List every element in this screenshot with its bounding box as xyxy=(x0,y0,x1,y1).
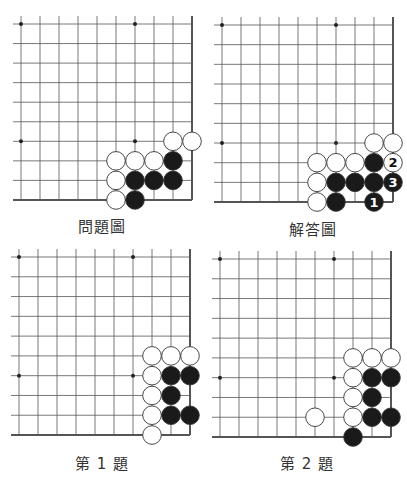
board-exercise-2 xyxy=(212,251,400,446)
star-point-icon xyxy=(334,141,338,145)
board-exercise-1 xyxy=(11,249,199,444)
black-stone xyxy=(164,152,183,171)
white-stone xyxy=(382,349,401,368)
white-stone xyxy=(344,349,363,368)
move-number-label: 1 xyxy=(369,195,378,210)
star-point-icon xyxy=(218,257,222,261)
move-number-label: 2 xyxy=(388,155,397,170)
go-diagram-canvas: 231 xyxy=(0,0,407,479)
move-number-label: 3 xyxy=(388,175,397,190)
star-point-icon xyxy=(133,22,137,26)
black-stone xyxy=(327,173,346,192)
board-answer: 231 xyxy=(214,17,402,211)
black-stone xyxy=(126,171,145,190)
grid-lines xyxy=(214,17,393,202)
black-stone xyxy=(181,366,200,385)
black-stone xyxy=(363,388,382,407)
star-point-icon xyxy=(334,23,338,27)
white-stone xyxy=(107,171,126,190)
white-stone xyxy=(363,349,382,368)
black-stone xyxy=(363,368,382,387)
black-stone: 1 xyxy=(365,193,384,212)
caption-exercise-1: 第 1 題 xyxy=(75,452,129,473)
star-point-icon xyxy=(17,255,21,259)
black-stone xyxy=(344,428,363,447)
black-stone xyxy=(162,366,181,385)
star-point-icon xyxy=(133,139,137,143)
black-stone xyxy=(363,408,382,427)
white-stone xyxy=(143,406,162,425)
white-stone xyxy=(145,152,164,171)
white-stone xyxy=(143,347,162,366)
star-point-icon xyxy=(131,255,135,259)
black-stone xyxy=(164,171,183,190)
black-stone xyxy=(181,406,200,425)
black-stone xyxy=(365,153,384,172)
star-point-icon xyxy=(19,22,23,26)
white-stone xyxy=(344,388,363,407)
white-stone xyxy=(308,193,327,212)
white-stone xyxy=(143,426,162,445)
black-stone xyxy=(126,191,145,210)
board-problem xyxy=(13,16,201,209)
white-stone: 2 xyxy=(384,153,403,172)
grid-lines xyxy=(13,16,192,200)
white-stone xyxy=(162,347,181,366)
white-stone xyxy=(143,366,162,385)
black-stone xyxy=(382,408,401,427)
star-point-icon xyxy=(131,374,135,378)
black-stone xyxy=(327,193,346,212)
white-stone xyxy=(126,152,145,171)
grid-lines xyxy=(11,249,190,435)
black-stone: 3 xyxy=(384,173,403,192)
star-point-icon xyxy=(220,23,224,27)
white-stone xyxy=(308,173,327,192)
white-stone xyxy=(107,191,126,210)
white-stone xyxy=(327,153,346,172)
star-point-icon xyxy=(332,376,336,380)
black-stone xyxy=(162,406,181,425)
star-point-icon xyxy=(218,376,222,380)
black-stone xyxy=(382,368,401,387)
star-point-icon xyxy=(19,139,23,143)
caption-exercise-2: 第 2 題 xyxy=(280,452,334,473)
caption-problem: 問題圖 xyxy=(78,215,126,236)
white-stone xyxy=(344,408,363,427)
white-stone xyxy=(306,408,325,427)
star-point-icon xyxy=(332,257,336,261)
white-stone xyxy=(183,132,202,151)
caption-answer: 解答圖 xyxy=(289,218,337,239)
star-point-icon xyxy=(220,141,224,145)
star-point-icon xyxy=(17,374,21,378)
white-stone xyxy=(308,153,327,172)
white-stone xyxy=(164,132,183,151)
black-stone xyxy=(145,171,164,190)
white-stone xyxy=(181,347,200,366)
black-stone xyxy=(346,173,365,192)
grid-lines xyxy=(212,251,391,437)
white-stone xyxy=(143,386,162,405)
black-stone xyxy=(365,173,384,192)
white-stone xyxy=(365,134,384,153)
white-stone xyxy=(107,152,126,171)
white-stone xyxy=(346,153,365,172)
black-stone xyxy=(162,386,181,405)
white-stone xyxy=(384,134,403,153)
white-stone xyxy=(344,368,363,387)
